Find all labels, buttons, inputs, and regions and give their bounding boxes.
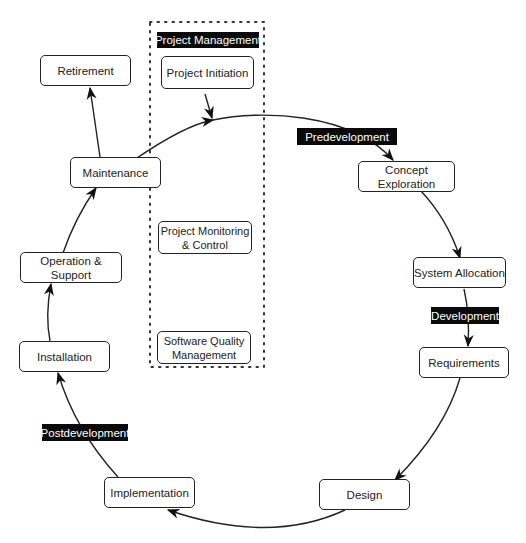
- installation-label: Installation: [37, 350, 92, 364]
- project-management-tag: Project Management: [157, 32, 259, 48]
- node-concept-exploration[interactable]: Concept Exploration: [358, 161, 455, 192]
- phase-postdevelopment-label: Postdevelopment: [41, 427, 130, 439]
- node-project-monitoring[interactable]: Project Monitoring & Control: [158, 221, 252, 254]
- phase-development-label: Development: [431, 310, 499, 322]
- arc-concept-to-system: [421, 191, 460, 258]
- concept-exploration-label: Concept Exploration: [359, 163, 454, 191]
- node-implementation[interactable]: Implementation: [104, 477, 195, 508]
- system-allocation-label: System Allocation: [414, 266, 505, 280]
- node-requirements[interactable]: Requirements: [419, 347, 509, 378]
- software-quality-label-line1: Software Quality: [164, 334, 245, 348]
- project-management-label: Project Management: [155, 34, 261, 46]
- node-system-allocation[interactable]: System Allocation: [413, 257, 506, 288]
- implementation-label: Implementation: [110, 486, 189, 500]
- arc-requirements-to-design: [395, 378, 460, 480]
- node-maintenance[interactable]: Maintenance: [70, 157, 161, 188]
- node-design[interactable]: Design: [319, 479, 410, 510]
- initiation-arrow: [205, 94, 212, 118]
- arc-design-to-implementation: [168, 510, 345, 528]
- project-initiation-label: Project Initiation: [167, 66, 249, 80]
- phase-predevelopment-tag: Predevelopment: [297, 128, 397, 145]
- operation-support-label: Operation & Support: [21, 254, 121, 282]
- project-monitoring-label-line1: Project Monitoring: [161, 224, 250, 238]
- maintenance-label: Maintenance: [83, 166, 149, 180]
- phase-postdevelopment-tag: Postdevelopment: [42, 424, 128, 441]
- node-operation-support[interactable]: Operation & Support: [20, 252, 122, 283]
- requirements-label: Requirements: [428, 356, 500, 370]
- software-quality-label-line2: Management: [172, 348, 236, 362]
- node-project-initiation[interactable]: Project Initiation: [161, 56, 254, 89]
- design-label: Design: [347, 488, 383, 502]
- maintenance-to-retirement-arrow: [90, 88, 100, 157]
- phase-predevelopment-label: Predevelopment: [305, 131, 389, 143]
- project-monitoring-label-line2: & Control: [182, 238, 228, 252]
- arc-installation-to-operation: [48, 284, 51, 341]
- node-retirement[interactable]: Retirement: [40, 55, 131, 86]
- retirement-label: Retirement: [57, 64, 113, 78]
- arc-operation-to-maintenance: [63, 188, 96, 253]
- phase-development-tag: Development: [431, 307, 499, 324]
- node-installation[interactable]: Installation: [19, 341, 110, 372]
- node-software-quality[interactable]: Software Quality Management: [157, 331, 251, 364]
- arc-maintenance-to-concept: [134, 120, 213, 160]
